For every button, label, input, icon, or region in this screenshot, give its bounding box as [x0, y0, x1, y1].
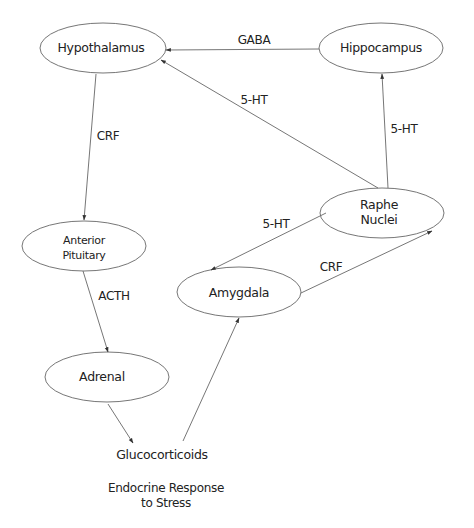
anterior-pituitary-label-line2: Pituitary	[62, 249, 105, 262]
hypothalamus-label: Hypothalamus	[57, 41, 144, 55]
edge-glucocorticoids-amygdala-arrow	[183, 318, 239, 441]
hippocampus-label: Hippocampus	[340, 41, 422, 55]
amygdala-label: Amygdala	[209, 286, 269, 300]
glucocorticoids-label: Glucocorticoids	[116, 448, 208, 462]
edge-label-raphe-hippocampus-5ht: 5-HT	[390, 122, 417, 136]
edge-label-amygdala-raphe-crf: CRF	[320, 260, 343, 274]
edge-label-hypothalamus-pituitary-crf: CRF	[97, 129, 120, 143]
edge-gaba-arrow	[166, 49, 319, 50]
edge-label-raphe-hypothalamus-5ht: 5-HT	[240, 93, 267, 107]
edge-crf-pituitary-arrow	[84, 74, 96, 220]
footer-caption-line2: to Stress	[141, 496, 191, 510]
diagram-graphics	[0, 0, 474, 528]
raphe-nuclei-label-line2: Nuclei	[361, 213, 398, 227]
edge-raphe-hippocampus-arrow	[382, 74, 388, 188]
raphe-nuclei-label-line1: Raphe	[360, 198, 398, 212]
edge-label-raphe-amygdala-5ht: 5-HT	[262, 217, 289, 231]
edge-raphe-hypothalamus-arrow	[161, 60, 378, 188]
anterior-pituitary-label-line1: Anterior	[63, 234, 105, 247]
edge-label-gaba: GABA	[238, 33, 271, 47]
edge-label-acth: ACTH	[98, 289, 130, 303]
adrenal-label: Adrenal	[79, 370, 125, 384]
diagram-canvas: Hypothalamus Hippocampus Anterior Pituit…	[0, 0, 474, 528]
edge-adrenal-glucocorticoids-arrow	[108, 404, 133, 443]
edge-acth-arrow	[83, 271, 108, 352]
footer-caption-line1: Endocrine Response	[108, 481, 224, 495]
